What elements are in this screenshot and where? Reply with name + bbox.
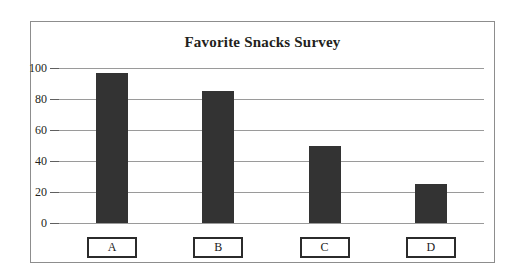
bar-b [202, 91, 234, 223]
y-axis-label: 20 [35, 185, 47, 200]
category-label-d: D [406, 237, 456, 258]
y-axis-tick [50, 130, 59, 131]
bar-a [96, 73, 128, 223]
bar-c [309, 146, 341, 224]
y-axis-label: 100 [29, 61, 47, 76]
y-axis-label: 80 [35, 92, 47, 107]
y-axis-tick [50, 161, 59, 162]
chart-title: Favorite Snacks Survey [31, 34, 494, 51]
category-label-c: C [300, 237, 350, 258]
y-axis-label: 0 [41, 216, 47, 231]
y-axis-label: 60 [35, 123, 47, 138]
bar-d [415, 184, 447, 223]
y-axis-tick [50, 99, 59, 100]
y-axis-tick [50, 68, 59, 69]
y-axis-label: 40 [35, 154, 47, 169]
plot-area: 020406080100 [59, 68, 484, 223]
category-label-a: A [87, 237, 137, 258]
category-label-b: B [193, 237, 243, 258]
gridline [59, 68, 484, 69]
y-axis-tick [50, 223, 59, 224]
y-axis-tick [50, 192, 59, 193]
chart-frame: Favorite Snacks Survey 020406080100 ABCD [30, 21, 495, 263]
category-axis: ABCD [59, 223, 484, 263]
